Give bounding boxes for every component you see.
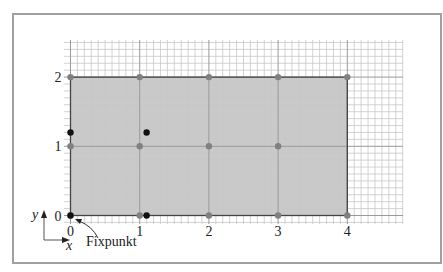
lattice-point <box>137 74 143 80</box>
y-tick-label: 1 <box>55 139 62 154</box>
y-tick-label: 2 <box>55 70 62 85</box>
lattice-point <box>206 74 212 80</box>
x-axis-label: x <box>65 238 73 253</box>
x-tick-label: 0 <box>67 224 74 239</box>
lattice-point <box>275 74 281 80</box>
y-tick-label: 0 <box>55 209 62 224</box>
lattice-point <box>206 212 212 218</box>
lattice-point <box>67 143 73 149</box>
x-tick-label: 1 <box>136 224 143 239</box>
mapped-point <box>67 212 73 218</box>
x-tick-label: 3 <box>275 224 282 239</box>
lattice-point <box>67 74 73 80</box>
x-tick-label: 2 <box>205 224 212 239</box>
lattice-point <box>137 212 143 218</box>
lattice-point <box>137 143 143 149</box>
lattice-point <box>344 74 350 80</box>
mapped-point <box>67 129 73 135</box>
fixpunkt-annotation: Fixpunkt <box>75 219 137 249</box>
arrow-up-icon <box>41 210 47 218</box>
y-tick-labels: 012 <box>55 70 62 223</box>
grid-diagram: 01234 012 y x Fixpunkt <box>0 0 443 272</box>
mapped-point <box>143 129 149 135</box>
lattice-point <box>206 143 212 149</box>
arrow-icon <box>75 219 82 224</box>
y-axis-label: y <box>30 207 39 222</box>
lattice-point <box>344 212 350 218</box>
figure: 01234 012 y x Fixpunkt <box>0 0 443 272</box>
fixpunkt-label: Fixpunkt <box>86 234 137 249</box>
lattice-point <box>275 212 281 218</box>
x-tick-label: 4 <box>344 224 351 239</box>
mapped-point <box>143 212 149 218</box>
lattice-point <box>275 143 281 149</box>
